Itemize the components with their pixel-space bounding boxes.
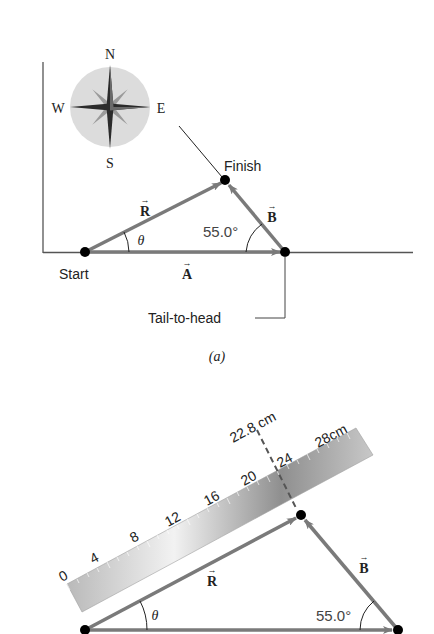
head-a-point <box>280 247 290 257</box>
compass-north-label: N <box>105 47 115 62</box>
ruler <box>67 428 373 612</box>
start-label: Start <box>59 266 89 282</box>
svg-text:→: → <box>183 258 192 268</box>
angle-55-arc-b <box>360 601 374 630</box>
compass-south-label: S <box>106 156 114 171</box>
finish-point-b <box>296 510 306 520</box>
svg-text:A: A <box>182 267 193 282</box>
angle-label: 55.0° <box>203 223 238 240</box>
vector-b-label-b: B → <box>359 552 368 576</box>
ruler-tick-0: 0 <box>56 567 71 585</box>
svg-text:B: B <box>359 561 368 576</box>
ruler-tick-8: 8 <box>127 528 142 546</box>
figure-a-caption: (a) <box>209 349 226 365</box>
theta-arc-b <box>140 601 147 630</box>
tail-to-head-label: Tail-to-head <box>148 310 221 326</box>
svg-text:→: → <box>208 565 217 575</box>
vector-addition-diagram: N S W E Finish Start R → A → B → <box>0 0 434 634</box>
ruler-tick-4: 4 <box>87 549 102 567</box>
vector-b-label: B → <box>267 201 276 225</box>
tail-to-head-leader <box>255 256 285 318</box>
compass-rose-icon <box>70 65 150 149</box>
svg-text:→: → <box>141 195 150 205</box>
vector-r-label: R → <box>140 195 151 219</box>
theta-label: θ <box>138 233 145 248</box>
figure-a: N S W E Finish Start R → A → B → <box>43 47 413 365</box>
ruler-tick-labels: 0 4 8 12 16 20 24 28cm 22.8 cm <box>56 408 350 585</box>
compass-west-label: W <box>51 101 65 116</box>
theta-label-b: θ <box>152 608 159 623</box>
finish-point <box>220 175 230 185</box>
vector-a-label: A → <box>182 258 193 282</box>
theta-arc <box>124 232 129 252</box>
svg-text:R: R <box>140 204 151 219</box>
vector-r-arrow <box>85 183 221 252</box>
vector-r-label-b: R → <box>207 565 218 589</box>
compass-east-label: E <box>157 101 166 116</box>
start-point <box>80 247 90 257</box>
angle-label-b: 55.0° <box>316 607 351 624</box>
ruler-measurement-label: 22.8 cm <box>227 408 278 446</box>
figure-b: 0 4 8 12 16 20 24 28cm 22.8 cm R → B → <box>56 408 403 634</box>
svg-text:R: R <box>207 574 218 589</box>
svg-text:→: → <box>360 552 369 562</box>
svg-text:→: → <box>268 201 277 211</box>
angle-55-arc <box>246 224 262 252</box>
svg-text:B: B <box>267 210 276 225</box>
direction-line <box>179 126 222 177</box>
finish-label: Finish <box>224 158 261 174</box>
